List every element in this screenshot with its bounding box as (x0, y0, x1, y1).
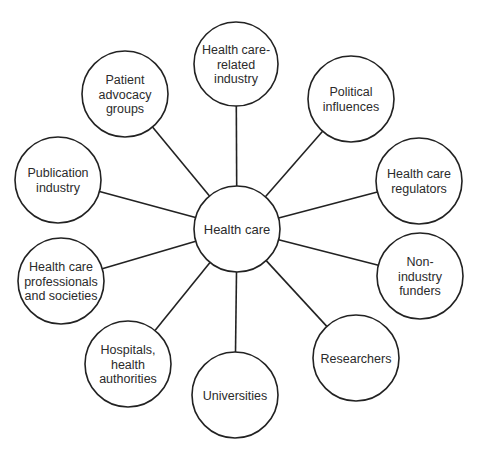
edge-to-hospitals-health-authorities (155, 263, 210, 331)
node-health-care-related-industry: Health care-relatedindustry (194, 22, 278, 106)
node-label: industry (214, 72, 259, 86)
node-label: groups (106, 102, 144, 116)
center-node-health-care: Health care (194, 186, 280, 272)
node-health-care: Health care (194, 186, 280, 272)
node-label: Health care- (202, 43, 270, 57)
node-label: Universities (203, 389, 268, 403)
node-label: advocacy (99, 88, 153, 102)
node-label: professionals (24, 275, 98, 289)
node-label: Health care (387, 167, 451, 181)
stakeholder-diagram: Health care-relatedindustryPoliticalinfl… (0, 0, 478, 454)
node-label: Political (329, 85, 372, 99)
node-label: and societies (25, 289, 98, 303)
node-label: Publication (27, 166, 88, 180)
node-label: regulators (391, 182, 447, 196)
node-label: industry (36, 181, 81, 195)
node-patient-advocacy-groups: Patientadvocacygroups (82, 51, 168, 137)
edge-to-patient-advocacy-groups (153, 127, 210, 196)
node-health-care-professionals-and-societies: Health careprofessionalsand societies (18, 238, 104, 324)
node-political-influences: Politicalinfluences (308, 56, 394, 142)
edge-to-health-care-regulators (279, 192, 378, 218)
edge-to-publication-industry (100, 191, 196, 217)
node-label: influences (323, 100, 379, 114)
node-label: authorities (99, 372, 157, 386)
node-researchers: Researchers (313, 315, 399, 401)
node-label: Health care (204, 222, 270, 237)
node-label: health (111, 358, 145, 372)
node-non-industry-funders: Non-industryfunders (377, 233, 463, 319)
edge-to-non-industry-funders (279, 240, 379, 266)
node-label: Researchers (321, 352, 392, 366)
node-hospitals-health-authorities: Hospitals,healthauthorities (85, 321, 171, 407)
edge-to-researchers (266, 261, 327, 327)
edge-to-political-influences (265, 131, 322, 196)
edge-to-universities (236, 272, 237, 352)
edge-to-health-care-professionals-and-societies (102, 241, 196, 269)
node-label: Health care (29, 260, 93, 274)
node-label: industry (398, 270, 443, 284)
node-health-care-regulators: Health careregulators (376, 138, 462, 224)
node-publication-industry: Publicationindustry (15, 137, 101, 223)
node-label: related (217, 58, 255, 72)
node-label: Hospitals, (101, 343, 156, 357)
node-label: funders (399, 284, 441, 298)
node-universities: Universities (192, 352, 278, 438)
node-label: Non- (406, 255, 433, 269)
node-label: Patient (106, 73, 145, 87)
